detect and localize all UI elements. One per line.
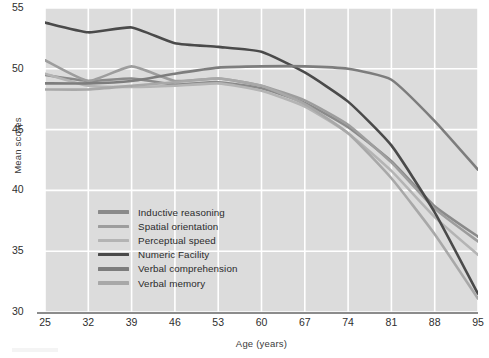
- x-axis-spine: [37, 312, 478, 314]
- legend-item: Spatial orientation: [98, 219, 298, 233]
- scan-artifact: [12, 348, 58, 352]
- x-tick-label: 39: [112, 316, 152, 328]
- y-tick-label: 55: [12, 2, 42, 13]
- x-tick-label: 88: [415, 316, 455, 328]
- x-tick-label: 81: [371, 316, 411, 328]
- legend-item-label: Perceptual speed: [138, 235, 216, 246]
- x-tick-label: 53: [198, 316, 238, 328]
- y-tick-label: 50: [12, 63, 42, 74]
- legend-item: Verbal comprehension: [98, 262, 298, 276]
- x-tick-label: 46: [155, 316, 195, 328]
- legend-item-label: Spatial orientation: [138, 221, 218, 232]
- legend-item: Perceptual speed: [98, 233, 298, 247]
- legend-item-label: Verbal memory: [138, 278, 205, 289]
- x-tick-label: 32: [68, 316, 108, 328]
- legend-item-label: Inductive reasoning: [138, 207, 225, 218]
- legend-swatch-line-icon: [98, 281, 129, 284]
- y-tick-label: 35: [12, 245, 42, 256]
- y-tick-label: 45: [12, 124, 42, 135]
- legend-item: Numeric Facility: [98, 248, 298, 262]
- legend-swatch-line-icon: [98, 225, 129, 228]
- x-tick-label: 67: [285, 316, 325, 328]
- x-tick-label: 95: [458, 316, 489, 328]
- legend-swatch-line-icon: [98, 239, 129, 242]
- y-tick-label: 40: [12, 184, 42, 195]
- legend-item-label: Numeric Facility: [138, 249, 209, 260]
- x-axis-title: Age (years): [45, 338, 478, 349]
- x-tick-label: 60: [242, 316, 282, 328]
- chart-legend: Inductive reasoningSpatial orientationPe…: [98, 205, 298, 290]
- x-tick-label: 25: [25, 316, 65, 328]
- legend-swatch-line-icon: [98, 267, 129, 270]
- legend-item: Verbal memory: [98, 276, 298, 290]
- y-axis-tick-labels: 555045403530: [0, 0, 42, 358]
- x-tick-label: 74: [328, 316, 368, 328]
- legend-item-label: Verbal comprehension: [138, 263, 238, 274]
- legend-swatch-line-icon: [98, 253, 129, 256]
- legend-item: Inductive reasoning: [98, 205, 298, 219]
- legend-swatch-line-icon: [98, 210, 129, 213]
